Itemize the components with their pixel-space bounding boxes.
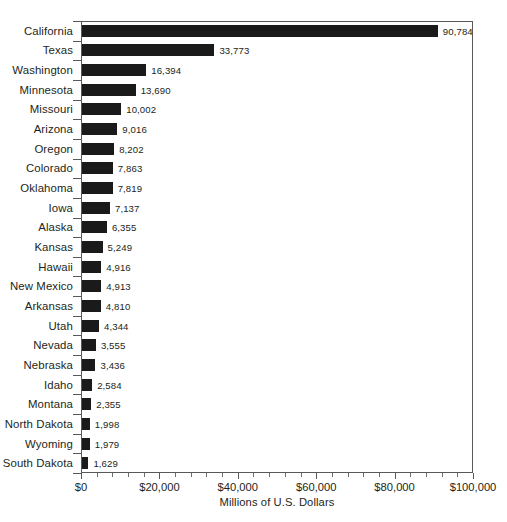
x-axis-major-tick [238,473,239,479]
bar [82,398,91,410]
x-axis-major-tick [159,473,160,479]
y-axis-tick [73,178,81,179]
bar [82,280,101,292]
y-axis-tick [73,257,81,258]
bar [82,339,96,351]
x-axis-major-tick [473,473,474,479]
y-axis-tick [73,237,81,238]
category-label: Texas [43,44,73,56]
bar [82,202,110,214]
bar-row: Washington16,394 [0,60,507,80]
y-axis-tick [73,100,81,101]
category-label: Wyoming [25,438,73,450]
y-axis-tick [73,394,81,395]
bar-value-label: 7,819 [118,183,143,194]
x-axis-minor-tick [97,473,98,477]
x-axis-tick-label: $20,000 [139,481,179,493]
x-axis-minor-tick [363,473,364,477]
bar-row: Nebraska3,436 [0,355,507,375]
bar-value-label: 2,584 [97,379,122,390]
bar-value-label: 8,202 [119,143,144,154]
bar-value-label: 5,249 [108,241,133,252]
category-label: Kansas [34,241,73,253]
bar [82,123,117,135]
bar-row: South Dakota1,629 [0,453,507,473]
y-axis-tick [73,375,81,376]
x-axis-major-tick [395,473,396,479]
bar-value-label: 4,344 [104,320,129,331]
category-label: South Dakota [3,457,73,469]
y-axis-tick [73,139,81,140]
category-label: Montana [28,398,73,410]
y-axis-tick [73,355,81,356]
bar [82,359,95,371]
x-axis-tick-label: $0 [75,481,87,493]
x-axis-minor-tick [222,473,223,477]
bar [82,438,90,450]
bar-value-label: 7,137 [115,202,140,213]
bar-value-label: 6,355 [112,222,137,233]
bar-row: Nevada3,555 [0,335,507,355]
x-axis-minor-tick [348,473,349,477]
category-label: Hawaii [38,261,73,273]
category-label: Nevada [33,339,73,351]
bar-row: Arkansas4,810 [0,296,507,316]
bar-row: North Dakota1,998 [0,414,507,434]
bar [82,44,214,56]
y-axis-tick [73,198,81,199]
bar [82,103,121,115]
y-axis-tick [73,21,81,22]
category-label: North Dakota [5,418,73,430]
category-label: Utah [49,320,73,332]
bar-value-label: 1,998 [95,418,120,429]
bar [82,64,146,76]
y-axis-tick [73,218,81,219]
bar-value-label: 3,436 [100,359,125,370]
bar-value-label: 16,394 [151,65,181,76]
x-axis-minor-tick [191,473,192,477]
category-label: Idaho [44,379,73,391]
category-label: Arizona [34,123,73,135]
bar [82,379,92,391]
bar-row: Montana2,355 [0,394,507,414]
bar-row: Hawaii4,916 [0,257,507,277]
y-axis-tick [73,119,81,120]
y-axis-tick [73,335,81,336]
y-axis-tick [73,473,81,474]
category-label: Alaska [38,221,73,233]
bar-row: California90,784 [0,21,507,41]
y-axis-tick [73,159,81,160]
x-axis-minor-tick [332,473,333,477]
category-label: Oklahoma [20,182,73,194]
x-axis-minor-tick [410,473,411,477]
x-axis-minor-tick [301,473,302,477]
category-label: Arkansas [25,300,73,312]
bar-value-label: 2,355 [96,399,121,410]
bar-value-label: 3,555 [101,340,126,351]
category-label: California [24,25,73,37]
bar [82,182,113,194]
bar-row: Minnesota13,690 [0,80,507,100]
x-axis-tick-label: $80,000 [374,481,414,493]
bar-row: Arizona9,016 [0,119,507,139]
bar [82,162,113,174]
bar [82,457,88,469]
y-axis-tick [73,80,81,81]
bar-row: Idaho2,584 [0,375,507,395]
x-axis-title: Millions of U.S. Dollars [81,496,473,508]
x-axis-minor-tick [112,473,113,477]
x-axis-minor-tick [285,473,286,477]
category-label: Nebraska [23,359,73,371]
bar-value-label: 13,690 [141,84,171,95]
bar-value-label: 9,016 [122,124,147,135]
x-axis-tick-label: $60,000 [296,481,336,493]
y-axis-tick [73,296,81,297]
category-label: Colorado [26,162,73,174]
x-axis-minor-tick [426,473,427,477]
bar-value-label: 4,810 [106,300,131,311]
x-axis-minor-tick [144,473,145,477]
bar [82,25,438,37]
y-axis-tick [73,41,81,42]
bar [82,320,99,332]
category-label: Oregon [34,143,73,155]
